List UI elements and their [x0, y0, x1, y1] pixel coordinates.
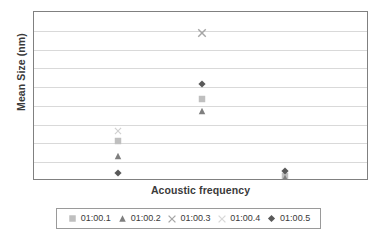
y-axis-title: Mean Size (nm)	[13, 7, 29, 137]
legend-item-label: 01:00.1	[81, 213, 111, 224]
diamond-icon	[266, 213, 277, 224]
scatter-chart: Mean Size (nm) Acoustic frequency 01:00.…	[0, 0, 382, 245]
plot-area	[33, 11, 368, 180]
legend-item[interactable]: 01:00.5	[266, 213, 310, 224]
data-point-cross-light	[113, 127, 122, 136]
square-icon	[67, 213, 78, 224]
legend-item[interactable]: 01:00.4	[216, 213, 260, 224]
data-point-triangle	[197, 107, 206, 116]
triangle-icon	[117, 213, 128, 224]
legend-item-label: 01:00.2	[131, 213, 161, 224]
legend-item-label: 01:00.5	[280, 213, 310, 224]
cross-icon	[166, 213, 177, 224]
data-point-square	[197, 94, 206, 103]
legend-item-label: 01:00.3	[180, 213, 210, 224]
legend-item[interactable]: 01:00.2	[117, 213, 161, 224]
legend-item-label: 01:00.4	[230, 213, 260, 224]
data-point-square	[113, 136, 122, 145]
data-point-diamond	[197, 79, 206, 88]
cross-light-icon	[216, 213, 227, 224]
data-points-layer	[34, 12, 367, 179]
data-point-diamond	[281, 167, 290, 176]
chart-legend: 01:00.101:00.201:00.301:00.401:00.5	[56, 208, 321, 229]
legend-item[interactable]: 01:00.3	[166, 213, 210, 224]
x-axis-title: Acoustic frequency	[33, 184, 368, 196]
data-point-diamond	[113, 168, 122, 177]
data-point-triangle	[113, 151, 122, 160]
legend-item[interactable]: 01:00.1	[67, 213, 111, 224]
data-point-cross	[196, 28, 207, 39]
